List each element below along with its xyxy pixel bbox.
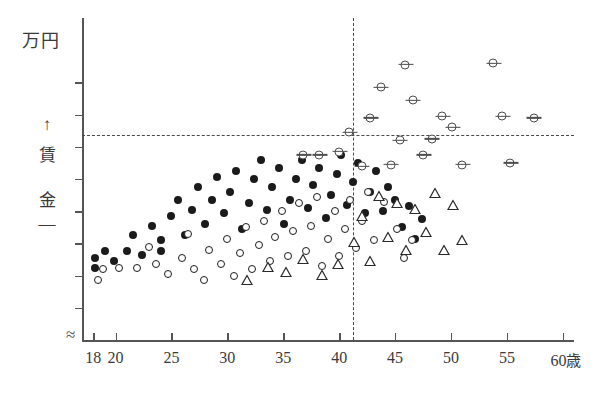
x-axis-tick-label: 60歳 — [550, 349, 581, 370]
data-point-open-circle — [184, 230, 192, 238]
data-point-filled-circle — [167, 212, 175, 220]
data-point-filled-circle — [418, 215, 426, 223]
data-point-crossed-circle — [315, 150, 324, 159]
data-point-crossed-circle — [506, 158, 515, 167]
data-point-filled-circle — [333, 170, 341, 178]
data-point-filled-circle — [213, 173, 221, 181]
data-point-triangle — [409, 201, 421, 212]
x-axis-tick — [395, 333, 396, 341]
x-axis-unit-label: 歳 — [566, 353, 581, 369]
y-axis-title-char-1: 賃 — [39, 147, 56, 164]
data-point-crossed-circle — [395, 136, 404, 145]
data-point-open-circle — [99, 265, 107, 273]
data-point-open-circle — [152, 260, 160, 268]
data-point-open-circle — [230, 272, 238, 280]
data-point-filled-circle — [174, 196, 182, 204]
data-point-crossed-circle — [335, 147, 344, 156]
data-point-triangle — [429, 185, 441, 196]
y-axis-unit-label: 万円 — [22, 26, 60, 52]
data-point-triangle — [438, 241, 450, 252]
horizontal-reference-line — [82, 135, 574, 136]
x-axis-tick-label: 18 — [85, 349, 101, 367]
data-point-open-circle — [331, 207, 339, 215]
data-point-crossed-circle — [438, 112, 447, 121]
data-point-filled-circle — [201, 220, 209, 228]
data-point-triangle — [447, 196, 459, 207]
data-point-open-circle — [236, 249, 244, 257]
data-point-filled-circle — [292, 175, 300, 183]
data-point-open-circle — [284, 252, 292, 260]
up-arrow-icon: ↑ — [43, 116, 52, 133]
data-point-open-circle — [278, 207, 286, 215]
data-point-crossed-circle — [357, 162, 366, 171]
data-point-filled-circle — [384, 183, 392, 191]
data-point-filled-circle — [245, 199, 253, 207]
data-point-open-circle — [307, 222, 315, 230]
y-axis-tick — [75, 243, 83, 244]
data-point-filled-circle — [322, 214, 330, 222]
x-axis-tick — [227, 333, 228, 341]
data-point-triangle — [400, 241, 412, 252]
x-axis-tick — [563, 333, 564, 341]
data-point-open-circle — [295, 199, 303, 207]
data-point-filled-circle — [91, 254, 99, 262]
data-point-open-circle — [260, 217, 268, 225]
x-axis-tick-label: 35 — [275, 349, 291, 367]
data-point-open-circle — [370, 236, 378, 244]
data-point-open-circle — [364, 188, 372, 196]
data-point-filled-circle — [286, 196, 294, 204]
data-point-open-circle — [115, 264, 123, 272]
y-axis-tick — [75, 147, 83, 148]
data-point-open-circle — [178, 254, 186, 262]
data-point-open-circle — [255, 241, 263, 249]
y-axis-tick — [75, 179, 83, 180]
data-point-filled-circle — [275, 164, 283, 172]
y-axis-title: ↑ 賃 金 — — [34, 116, 60, 232]
x-axis-tick — [171, 333, 172, 341]
y-axis-tick — [75, 308, 83, 309]
x-axis-tick — [116, 333, 117, 341]
data-point-filled-circle — [379, 207, 387, 215]
data-point-triangle — [356, 207, 368, 218]
data-point-triangle — [382, 228, 394, 239]
data-point-filled-circle — [263, 206, 271, 214]
data-point-open-circle — [200, 276, 208, 284]
data-point-crossed-circle — [427, 134, 436, 143]
x-axis-tick-label: 30 — [219, 349, 235, 367]
x-axis-line — [82, 340, 574, 342]
data-point-crossed-circle — [498, 112, 507, 121]
y-axis-tick — [75, 115, 83, 116]
data-point-filled-circle — [148, 222, 156, 230]
data-point-filled-circle — [101, 247, 109, 255]
x-axis-tick-label: 45 — [387, 349, 403, 367]
y-axis-title-char-3: — — [39, 215, 56, 232]
data-point-crossed-circle — [299, 150, 308, 159]
data-point-open-circle — [393, 225, 401, 233]
data-point-crossed-circle — [408, 96, 417, 105]
data-point-crossed-circle — [401, 60, 410, 69]
x-axis-tick — [451, 333, 452, 341]
data-point-triangle — [420, 223, 432, 234]
data-point-filled-circle — [208, 196, 216, 204]
scatter-chart-figure: 万円 ↑ 賃 金 — ≈ 18202530354045505560歳 — [0, 0, 607, 405]
data-point-triangle — [348, 233, 360, 244]
data-point-triangle — [241, 272, 253, 283]
x-axis-tick — [283, 333, 284, 341]
data-point-filled-circle — [232, 167, 240, 175]
data-point-filled-circle — [309, 181, 317, 189]
x-axis-tick — [93, 333, 94, 341]
data-point-open-circle — [271, 233, 279, 241]
data-point-open-circle — [145, 243, 153, 251]
data-point-open-circle — [133, 264, 141, 272]
x-axis-tick-label: 25 — [163, 349, 179, 367]
axis-break-icon: ≈ — [66, 326, 75, 343]
data-point-crossed-circle — [345, 128, 354, 137]
data-point-open-circle — [190, 265, 198, 273]
data-point-open-circle — [242, 223, 250, 231]
data-point-open-circle — [164, 270, 172, 278]
y-axis-tick — [75, 211, 83, 212]
data-point-filled-circle — [157, 236, 165, 244]
data-point-filled-circle — [91, 264, 99, 272]
data-point-crossed-circle — [386, 160, 395, 169]
x-axis-tick — [339, 333, 340, 341]
